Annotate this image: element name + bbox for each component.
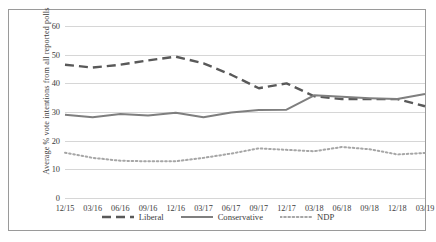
y-tick-label: 50 [52,50,60,59]
y-tick-label: 20 [52,136,60,145]
y-tick-label: 10 [52,165,60,174]
legend-swatch-liberal-icon [102,212,134,222]
legend-label: NDP [317,212,334,222]
legend-entry-conservative[interactable]: Conservative [181,212,263,222]
legend-swatch-ndp-icon [280,212,312,222]
legend-label: Conservative [218,212,263,222]
y-tick-label: 0 [56,194,60,203]
legend-label: Liberal [139,212,164,222]
legend-entry-ndp[interactable]: NDP [280,212,334,222]
gridline [65,198,425,199]
chart-legend: LiberalConservativeNDP [0,212,436,222]
series-layer [65,26,425,198]
chart-figure: Average % vote intentions from all repor… [0,0,436,242]
legend-entry-liberal[interactable]: Liberal [102,212,164,222]
y-tick-label: 40 [52,79,60,88]
y-tick-label: 30 [52,108,60,117]
y-tick-label: 60 [52,22,60,31]
legend-swatch-conservative-icon [181,212,213,222]
chart-frame: Average % vote intentions from all repor… [8,9,426,231]
series-line-conservative [65,94,425,117]
plot-area: 0102030405060 12/1503/1606/1609/1612/160… [65,26,425,198]
series-line-ndp [65,147,425,161]
y-axis-title: Average % vote intentions from all repor… [42,1,52,181]
